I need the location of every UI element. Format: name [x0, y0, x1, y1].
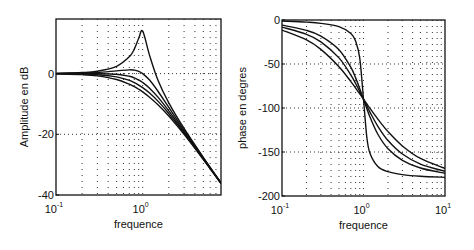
phase-plot: 0-50-100-150-20010-1100101frequencephase… — [236, 14, 451, 231]
x-tick-label: 10-1 — [271, 202, 290, 216]
y-tick-label: 0 — [48, 68, 54, 80]
curve-zeta-0-7 — [56, 74, 221, 184]
curves — [56, 31, 221, 184]
y-tick-label: -150 — [258, 146, 280, 158]
amplitude-plot: 0-20-4010-1100frequenceAmplitude en dB — [18, 19, 221, 230]
grid — [56, 19, 221, 195]
x-tick-label: 101 — [435, 202, 451, 216]
y-tick-label: -20 — [38, 128, 54, 140]
y-tick-label: -40 — [38, 189, 54, 201]
grid — [282, 20, 445, 196]
x-tick-label: 100 — [133, 201, 149, 215]
y-tick-label: -100 — [258, 102, 280, 114]
x-tick-label: 100 — [353, 202, 369, 216]
curve-zeta-1-0 — [56, 74, 221, 184]
y-tick-label: -50 — [264, 58, 280, 70]
curve-zeta-0-1 — [56, 31, 221, 183]
curve-zeta-0-5 — [56, 70, 221, 183]
x-axis-label: frequence — [339, 219, 388, 231]
y-axis-label: Amplitude en dB — [18, 67, 30, 148]
y-tick-label: -200 — [258, 190, 280, 202]
curve-zeta-0-85 — [56, 74, 221, 184]
y-tick-label: 0 — [274, 14, 280, 26]
x-tick-label: 10-1 — [45, 201, 64, 215]
axes-frame — [56, 19, 221, 195]
x-axis-label: frequence — [114, 218, 163, 230]
y-axis-label: phase en degres — [236, 67, 248, 149]
bode-plot-figure: 0-20-4010-1100frequenceAmplitude en dB 0… — [0, 0, 474, 250]
